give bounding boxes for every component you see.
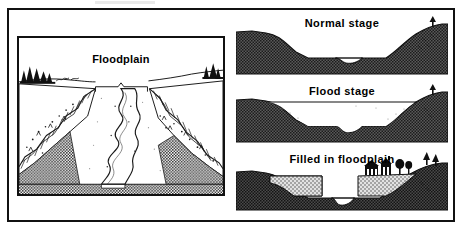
flood-stage-artwork: [236, 84, 448, 146]
normal-stage-artwork: [236, 16, 448, 78]
cross-section-flood-stage: Flood stage: [236, 84, 448, 146]
cross-section-column: Normal stage: [236, 14, 448, 214]
valley-perspective-artwork: [19, 38, 223, 194]
filled-floodplain-artwork: [236, 152, 448, 214]
scan-artifact: [95, 1, 155, 4]
cross-section-filled-floodplain: Filled in floodplain: [236, 152, 448, 214]
floodplain-figure: Floodplain: [0, 0, 463, 232]
valley-perspective-illustration: Floodplain: [17, 36, 225, 196]
cross-section-normal-stage: Normal stage: [236, 16, 448, 78]
